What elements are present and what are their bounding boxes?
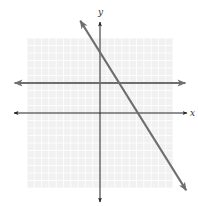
coordinate-graph: x y [0,0,198,206]
y-axis-label: y [97,7,104,17]
x-axis-label: x [190,108,195,118]
